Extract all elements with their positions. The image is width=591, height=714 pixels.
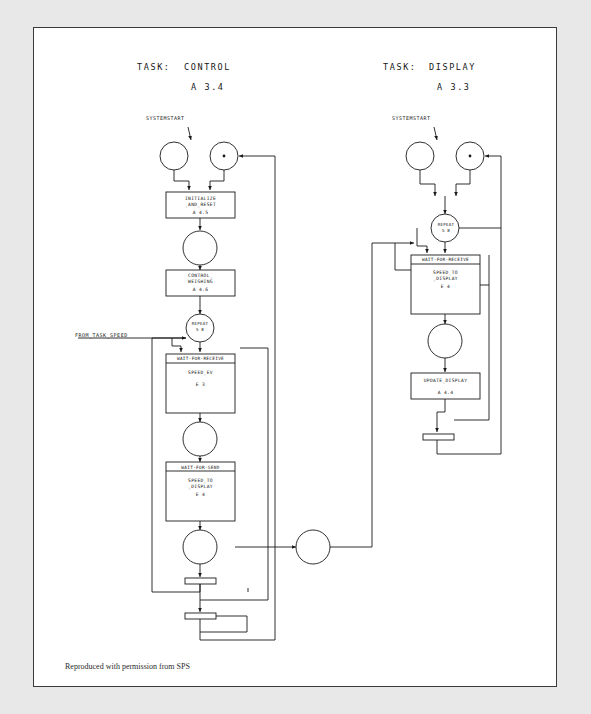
arc-token-to-initialize (210, 170, 224, 190)
place-middle-connector (296, 530, 330, 564)
diagram-page: TASK: CONTROL A 3.4 SYSTEMSTART FROM_TAS… (0, 0, 591, 714)
arc-feedback-to-token-place (200, 156, 275, 640)
token-dot-display (469, 155, 472, 158)
place-control-mid2 (183, 422, 217, 456)
transition-bar-2 (185, 613, 216, 619)
place-control-start (160, 142, 188, 170)
arc-middle-to-display-repeat (330, 243, 414, 547)
arc-display-inner-left-rail (395, 243, 411, 270)
transition-bar-1 (185, 578, 216, 584)
place-control-mid3 (183, 530, 217, 564)
token-dot-control (223, 155, 226, 158)
box-control-weighing (166, 270, 235, 296)
place-repeat-control (186, 314, 214, 342)
box-update-display (411, 373, 480, 399)
arc-display-token-to-repeat (456, 170, 470, 196)
arc-transition1-feedback-to-repeat (152, 338, 200, 592)
systemstart-arrow-control (188, 127, 191, 140)
arc-display-inner-right-rail (454, 255, 489, 420)
place-control-mid1 (183, 231, 217, 265)
place-display-mid (428, 324, 462, 358)
arc-display-transition-feedback (437, 156, 501, 454)
systemstart-arrow-display (434, 127, 437, 140)
arc-update-to-transition (437, 399, 445, 432)
arc-start-to-initialize (174, 170, 189, 190)
place-display-start (406, 142, 434, 170)
arc-display-start-to-repeat (420, 170, 435, 196)
box-initialize (166, 192, 235, 218)
arc-right-rail-down (200, 356, 268, 600)
petri-net-diagram (0, 0, 591, 714)
place-repeat-display (431, 214, 459, 242)
arc-left-to-wait-receive (172, 338, 181, 352)
transition-bar-display (423, 434, 454, 440)
arc-right-rail-top (240, 348, 268, 356)
arc-display-left-to-wait-receive (417, 228, 427, 253)
